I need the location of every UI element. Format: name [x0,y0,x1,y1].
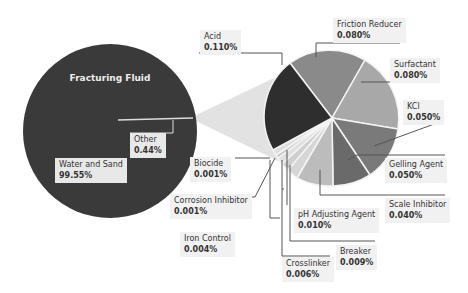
label-crosslinker: Crosslinker 0.006% [282,257,334,282]
label-value: 0.009% [340,257,373,268]
label-breaker: Breaker 0.009% [336,245,377,270]
detail-pie [264,50,399,186]
label-value: 0.050% [389,170,443,181]
label-name: Acid [204,31,237,42]
label-name: Corrosion Inhibitor [174,195,248,206]
label-name: Crosslinker [286,258,330,269]
label-value: 0.080% [337,30,402,41]
label-name: Breaker [340,246,373,257]
label-value: 0.050% [407,112,440,123]
label-biocide: Biocide 0.001% [190,157,231,182]
label-acid: Acid 0.110% [200,30,241,55]
label-other: Other 0.44% [130,133,166,158]
label-name: Friction Reducer [337,19,402,30]
label-value: 99.55% [59,170,123,181]
label-name: Water and Sand [59,159,123,170]
label-value: 0.110% [204,42,237,53]
label-surfactant: Surfactant 0.080% [390,58,440,83]
label-ph-adjusting-agent: pH Adjusting Agent 0.010% [294,208,379,233]
label-value: 0.44% [134,145,162,156]
label-kcl: KCl 0.050% [403,100,444,125]
label-corrosion-inhibitor: Corrosion Inhibitor 0.001% [170,194,252,219]
label-value: 0.006% [286,269,330,280]
label-iron-control: Iron Control 0.004% [180,232,235,257]
label-name: pH Adjusting Agent [298,209,375,220]
label-scale-inhibitor: Scale Inhibitor 0.040% [385,198,450,223]
label-value: 0.001% [194,169,227,180]
label-name: Scale Inhibitor [389,199,446,210]
label-value: 0.080% [394,70,436,81]
label-name: Other [134,134,162,145]
label-value: 0.001% [174,206,248,217]
label-friction-reducer: Friction Reducer 0.080% [333,18,406,43]
label-name: Gelling Agent [389,159,443,170]
label-value: 0.010% [298,220,375,231]
main-pie-title: Fracturing Fluid [60,73,160,83]
label-name: KCl [407,101,440,112]
label-name: Biocide [194,158,227,169]
label-name: Iron Control [184,233,231,244]
label-value: 0.040% [389,210,446,221]
label-gelling-agent: Gelling Agent 0.050% [385,158,447,183]
main-pie [23,44,197,218]
label-value: 0.004% [184,244,231,255]
label-water-and-sand: Water and Sand 99.55% [55,158,127,183]
label-name: Surfactant [394,59,436,70]
